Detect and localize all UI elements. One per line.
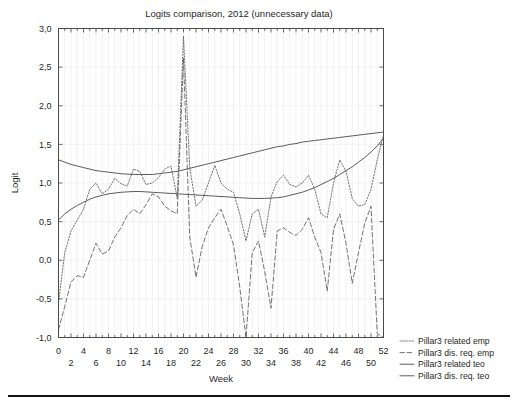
y-tick-label: 0,5 [39,217,52,227]
x-tick-label: 22 [191,358,201,368]
x-tick-label: 50 [366,358,376,368]
x-tick-label: 2 [68,358,73,368]
x-tick-label: 6 [93,358,98,368]
x-tick-label: 30 [241,358,251,368]
y-axis-tick-labels: 3,02,52,01,51,00,50,0-0,5-1,0 [36,24,52,343]
y-tick-label: 2,0 [39,101,52,111]
y-tick-label: -1,0 [36,333,52,343]
x-tick-label: 34 [266,358,276,368]
x-tick-label: 28 [228,346,238,356]
y-axis-title: Logit [9,172,20,193]
x-axis-title: Week [209,373,233,384]
x-tick-label: 14 [141,358,151,368]
logits-comparison-line-chart: Logits comparison, 2012 (unnecessary dat… [0,0,518,405]
x-tick-label: 26 [216,358,226,368]
x-tick-label: 38 [291,358,301,368]
x-tick-label: 36 [278,346,288,356]
x-tick-label: 10 [116,358,126,368]
x-tick-label: 40 [303,346,313,356]
legend-label-0: Pillar3 related emp [418,336,490,346]
x-tick-label: 0 [56,346,61,356]
legend-label-1: Pillar3 dis. req. emp [418,348,494,358]
chart-title: Logits comparison, 2012 (unnecessary dat… [145,8,332,19]
y-tick-label: 3,0 [39,24,52,34]
y-tick-label: 0,0 [39,255,52,265]
x-tick-label: 46 [341,358,351,368]
x-tick-label: 18 [166,358,176,368]
x-tick-label: 20 [178,346,188,356]
x-tick-label: 24 [203,346,213,356]
x-tick-label: 4 [81,346,86,356]
legend-label-2: Pillar3 related teo [418,359,485,369]
x-tick-label: 12 [128,346,138,356]
y-tick-label: -0,5 [36,294,52,304]
y-tick-label: 1,5 [39,140,52,150]
x-tick-label: 8 [106,346,111,356]
x-tick-label: 48 [353,346,363,356]
x-tick-label: 44 [328,346,338,356]
y-tick-label: 2,5 [39,62,52,72]
x-tick-label: 42 [316,358,326,368]
y-tick-label: 1,0 [39,178,52,188]
x-tick-label: 52 [378,346,388,356]
chart-figure: Logits comparison, 2012 (unnecessary dat… [0,0,518,405]
x-tick-label: 16 [153,346,163,356]
x-tick-label: 32 [253,346,263,356]
legend-label-3: Pillar3 dis. req. teo [418,371,489,381]
